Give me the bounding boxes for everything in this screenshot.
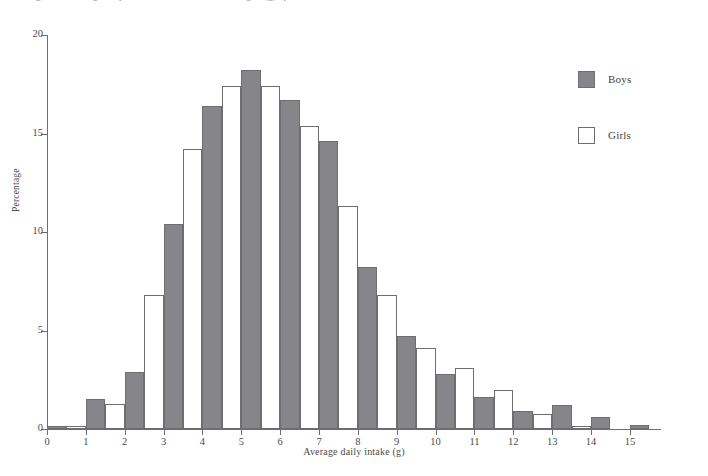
bar-boys-13-14 [552,405,571,429]
x-tick-label: 13 [547,436,558,447]
legend-swatch-boys-icon [578,71,595,88]
x-tick-mark-9 [397,430,398,435]
legend-item-boys: Boys [578,70,698,88]
x-tick-label: 4 [200,436,205,447]
bar-boys-9-10 [397,336,416,429]
y-tick-label: 15 [33,127,44,138]
x-tick-label: 15 [625,436,636,447]
x-tick-label: 2 [122,436,127,447]
x-tick-mark-3 [164,430,165,435]
bar-girls-10-11 [455,368,474,429]
x-tick-mark-2 [125,430,126,435]
bar-boys-3-4 [164,224,183,429]
bar-boys-12-13 [513,411,532,429]
legend-label-girls: Girls [608,129,631,141]
bar-girls-2-3 [144,295,163,429]
x-tick-mark-11 [474,430,475,435]
x-tick-mark-1 [86,430,87,435]
x-tick-label: 10 [430,436,441,447]
x-tick-mark-12 [513,430,514,435]
x-tick-label: 8 [355,436,360,447]
x-tick-mark-0 [47,430,48,435]
x-tick-label: 12 [508,436,519,447]
x-tick-mark-4 [202,430,203,435]
x-tick-label: 6 [278,436,283,447]
chart-legend: Boys Girls [578,70,698,182]
x-tick-label: 9 [394,436,399,447]
y-tick-label: 20 [33,28,44,39]
y-tick-label: 5 [38,324,43,335]
y-axis-line [47,35,48,430]
bar-boys-5-6 [241,70,260,429]
x-tick-mark-10 [436,430,437,435]
x-tick-mark-8 [358,430,359,435]
figure-container: Figure 5.9 Average daily intake of non-m… [0,0,708,476]
legend-swatch-girls-icon [578,127,595,144]
bar-girls-7-8 [338,206,357,429]
x-tick-label: 5 [239,436,244,447]
bar-girls-9-10 [416,348,435,429]
bar-boys-15-16 [630,425,649,429]
bar-girls-4-5 [222,86,241,429]
bar-girls-13-14 [572,426,591,429]
bar-boys-14-15 [591,417,610,429]
bar-boys-2-3 [125,372,144,429]
legend-item-girls: Girls [578,126,698,144]
bar-boys-7-8 [319,141,338,429]
x-tick-mark-13 [552,430,553,435]
x-tick-mark-14 [591,430,592,435]
x-tick-mark-7 [319,430,320,435]
bar-boys-1-2 [86,399,105,429]
x-axis-line [47,429,661,430]
x-tick-mark-15 [630,430,631,435]
bar-girls-6-7 [300,126,319,429]
bar-boys-8-9 [358,267,377,429]
bar-girls-12-13 [533,414,552,429]
x-axis-label: Average daily intake (g) [0,446,708,457]
legend-label-boys: Boys [608,73,631,85]
bar-girls-3-4 [183,149,202,429]
x-tick-label: 0 [44,436,49,447]
x-tick-label: 3 [161,436,166,447]
x-tick-label: 14 [586,436,597,447]
bar-girls-1-2 [105,404,124,429]
y-tick-label: 10 [33,225,44,236]
plot-area: 05101520 0123456789101112131415 [47,35,661,430]
figure-caption: Figure 5.9 Average daily intake of non-m… [28,0,304,1]
x-tick-label: 7 [316,436,321,447]
figure-caption-strip: Figure 5.9 Average daily intake of non-m… [0,0,708,11]
x-tick-mark-5 [241,430,242,435]
bar-boys-6-7 [280,100,299,429]
bar-girls-0-1 [66,426,85,429]
bar-girls-11-12 [494,390,513,429]
x-tick-label: 11 [469,436,479,447]
bar-boys-4-5 [202,106,221,429]
y-axis-label: Percentage [11,168,21,212]
bar-girls-5-6 [261,86,280,429]
bar-boys-10-11 [436,374,455,429]
x-tick-mark-6 [280,430,281,435]
bar-boys-0-1 [47,426,66,429]
bar-boys-11-12 [474,397,493,429]
x-tick-label: 1 [83,436,88,447]
bar-girls-8-9 [377,295,396,429]
y-tick-label: 0 [38,422,43,433]
